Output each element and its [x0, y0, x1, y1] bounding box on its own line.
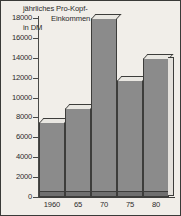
- y-tick-label-4000: 4000: [1, 152, 32, 161]
- y-tick-0: [33, 197, 39, 198]
- y-tick-label-0: 0: [1, 192, 32, 201]
- y-tick-label-14000: 14000: [1, 53, 32, 62]
- chart-title-line-1: jährliches Pro-Kopf-: [23, 4, 88, 13]
- bar-chart-figure: jährliches Pro-Kopf- Einkommen in DM 020…: [0, 0, 181, 216]
- y-axis-labels: 0200040006000800010000120001400016000180…: [1, 1, 32, 216]
- x-tick-label-1960: 1960: [39, 200, 65, 209]
- bar-75: [117, 80, 143, 197]
- y-tick-label-10000: 10000: [1, 93, 32, 102]
- bar-70: [91, 18, 117, 197]
- bar-65: [65, 108, 91, 198]
- bar-floor-80: [144, 191, 168, 196]
- x-tick-label-75: 75: [117, 200, 143, 209]
- y-tick-label-6000: 6000: [1, 132, 32, 141]
- bar-1960: [39, 122, 65, 197]
- plot-area: [39, 18, 169, 197]
- bar-floor-1960: [40, 191, 64, 196]
- y-tick-label-8000: 8000: [1, 112, 32, 121]
- bar-floor-75: [118, 191, 142, 196]
- bar-80: [143, 58, 169, 197]
- x-tick-label-65: 65: [65, 200, 91, 209]
- x-axis-baseline: [38, 197, 175, 198]
- bar-side-face: [168, 57, 174, 196]
- y-tick-label-16000: 16000: [1, 33, 32, 42]
- y-tick-label-12000: 12000: [1, 73, 32, 82]
- y-tick-label-2000: 2000: [1, 172, 32, 181]
- bar-floor-70: [92, 191, 116, 196]
- y-tick-label-18000: 18000: [1, 13, 32, 22]
- bar-top-face-70: [91, 14, 122, 19]
- x-tick-label-70: 70: [91, 200, 117, 209]
- x-tick-label-80: 80: [143, 200, 169, 209]
- bar-floor-65: [66, 191, 90, 196]
